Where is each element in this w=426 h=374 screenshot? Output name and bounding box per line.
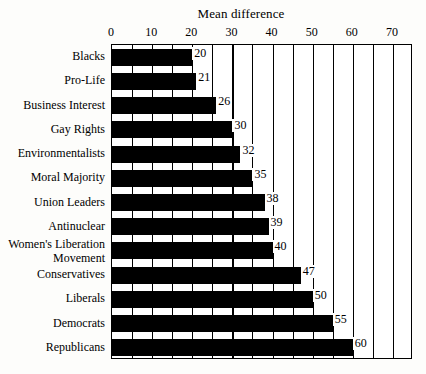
bar <box>112 121 232 138</box>
bar-value-label: 35 <box>252 168 267 181</box>
bar-value-label: 39 <box>269 216 284 229</box>
x-tick-label: 60 <box>346 25 358 39</box>
bar-value-label: 21 <box>196 71 211 84</box>
category-label: Democrats <box>0 317 105 329</box>
category-label: Conservatives <box>0 268 105 280</box>
bar <box>112 339 353 356</box>
bar <box>112 97 216 114</box>
category-label: Antinuclear <box>0 220 105 232</box>
bar-value-label: 20 <box>192 47 207 60</box>
chart-container: Mean difference 010203040506070 20212630… <box>0 0 426 374</box>
bar-value-label: 55 <box>333 313 348 326</box>
category-label: Gay Rights <box>0 123 105 135</box>
bar-value-label: 38 <box>265 192 280 205</box>
bar <box>112 170 252 187</box>
bar-value-label: 40 <box>273 240 288 253</box>
bar <box>112 218 269 235</box>
x-tick-label: 0 <box>108 25 114 39</box>
bar-value-label: 30 <box>232 119 247 132</box>
category-label: Liberals <box>0 292 105 304</box>
x-tick-label: 20 <box>185 25 197 39</box>
gridline <box>353 45 354 358</box>
x-tick-label: 50 <box>306 25 318 39</box>
category-label-line: Democrats <box>53 316 105 330</box>
category-label-line: Pro-Life <box>64 73 105 87</box>
category-label-line: Movement <box>0 252 105 264</box>
bar-value-label: 26 <box>216 95 231 108</box>
category-label: Republicans <box>0 341 105 353</box>
category-label: Blacks <box>0 50 105 62</box>
bar <box>112 242 273 259</box>
bar <box>112 315 333 332</box>
x-tick-label: 40 <box>266 25 278 39</box>
bar-value-label: 50 <box>313 289 328 302</box>
bar <box>112 267 301 284</box>
gridline <box>313 45 314 358</box>
x-tick-label: 10 <box>145 25 157 39</box>
bar-value-label: 47 <box>301 265 316 278</box>
x-tick-label: 70 <box>386 25 398 39</box>
category-label-line: Union Leaders <box>34 195 105 209</box>
bar-value-label: 60 <box>353 337 368 350</box>
category-label: Union Leaders <box>0 196 105 208</box>
category-label-line: Antinuclear <box>48 219 105 233</box>
bar <box>112 49 192 66</box>
category-label-line: Republicans <box>46 340 105 354</box>
category-label: Moral Majority <box>0 171 105 183</box>
bar-value-label: 32 <box>240 144 255 157</box>
chart-title: Mean difference <box>0 6 426 22</box>
bar <box>112 146 240 163</box>
bar <box>112 194 265 211</box>
x-axis-tick-labels: 010203040506070 <box>0 25 426 40</box>
category-label: Environmentalists <box>0 147 105 159</box>
category-label: Pro-Life <box>0 74 105 86</box>
category-label-line: Gay Rights <box>51 122 105 136</box>
gridline <box>373 45 374 358</box>
category-label-line: Conservatives <box>37 267 105 281</box>
category-label-line: Moral Majority <box>31 170 105 184</box>
category-label-line: Women's Liberation <box>8 237 105 251</box>
gridline <box>293 45 294 358</box>
category-label-line: Liberals <box>66 291 105 305</box>
gridline <box>393 45 394 358</box>
category-label-line: Environmentalists <box>18 146 105 160</box>
bar <box>112 73 196 90</box>
gridline <box>333 45 334 358</box>
x-tick-label: 30 <box>225 25 237 39</box>
category-label-line: Business Interest <box>23 98 105 112</box>
plot-area <box>111 44 412 359</box>
bar <box>112 291 313 308</box>
category-label: Women's LiberationMovement <box>0 238 105 264</box>
category-label: Business Interest <box>0 99 105 111</box>
category-label-line: Blacks <box>72 49 105 63</box>
